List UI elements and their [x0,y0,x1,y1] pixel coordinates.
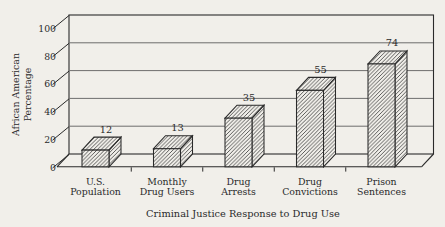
category-label-3-line1: Drug [298,176,322,187]
bar-front-face-2 [225,118,252,167]
bar-front-face-1 [154,149,181,167]
category-label-4-line2: Sentences [357,186,406,197]
bar-front-face-3 [297,90,324,166]
y-axis-title-line2: Percentage [22,67,33,121]
bar-front-face-0 [82,150,109,167]
category-label-1-line2: Drug Users [140,186,195,197]
y-axis-ticks: 020406080100 [38,16,69,173]
category-label-2-line1: Drug [226,176,250,187]
bar-front-face-4 [368,64,395,167]
category-labels: U.S.PopulationMonthlyDrug UsersDrugArres… [70,176,406,198]
bar-chart-figure: 020406080100 1213355574 U.S.PopulationMo… [0,0,445,227]
page: { "figure": { "colors": { "paper": "#f1e… [0,0,445,227]
bar-value-label-3: 55 [314,64,326,75]
chart-canvas: 020406080100 1213355574 U.S.PopulationMo… [0,0,445,227]
category-label-3-line2: Convictions [282,186,338,197]
category-label-2-line2: Arrests [220,186,256,197]
category-label-0-line2: Population [70,186,121,197]
y-tick-label-80: 80 [44,51,56,62]
category-label-4-line1: Prison [366,176,396,187]
bar-value-label-0: 12 [100,124,112,135]
bar-right-face-3 [324,77,336,166]
bar-value-label-2: 35 [243,92,255,103]
category-label-1-line1: Monthly [147,176,187,187]
floor-right-edge [422,154,434,167]
category-label-0-line1: U.S. [86,176,105,187]
y-tick-label-100: 100 [38,23,56,34]
bars [82,51,407,167]
y-tick-label-60: 60 [44,78,56,89]
x-axis-ticks [131,167,346,171]
bar-value-label-1: 13 [171,122,183,133]
y-tick-label-0: 0 [50,162,56,173]
bar-right-face-4 [395,51,407,167]
y-tick-label-40: 40 [44,106,56,117]
bar-value-label-4: 74 [386,37,398,48]
y-tick-label-20: 20 [44,134,56,145]
y-axis-title-line1: African American [10,53,21,137]
x-axis-title: Criminal Justice Response to Drug Use [146,208,340,219]
